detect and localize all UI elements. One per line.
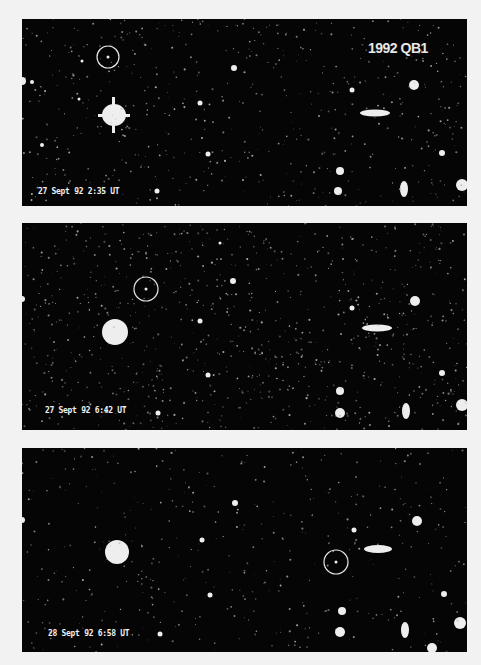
image-panel-1: 1992 QB1 27 Sept 92 2:35 UT — [22, 19, 467, 206]
figure-title: 1992 QB1 — [368, 40, 428, 56]
image-panel-2: 27 Sept 92 6:42 UT — [22, 223, 467, 430]
timestamp-2: 27 Sept 92 6:42 UT — [45, 406, 126, 415]
kuiper-object-1 — [107, 56, 110, 59]
timestamp-3: 28 Sept 92 6:58 UT — [48, 629, 129, 638]
star-field — [22, 448, 467, 652]
image-panel-3: 28 Sept 92 6:58 UT — [22, 448, 467, 652]
bright-star — [102, 319, 128, 345]
timestamp-1: 27 Sept 92 2:35 UT — [38, 187, 119, 196]
kuiper-object-2 — [145, 288, 148, 291]
kuiper-object-3 — [335, 561, 338, 564]
bright-star — [105, 540, 129, 564]
star-field — [22, 223, 467, 430]
